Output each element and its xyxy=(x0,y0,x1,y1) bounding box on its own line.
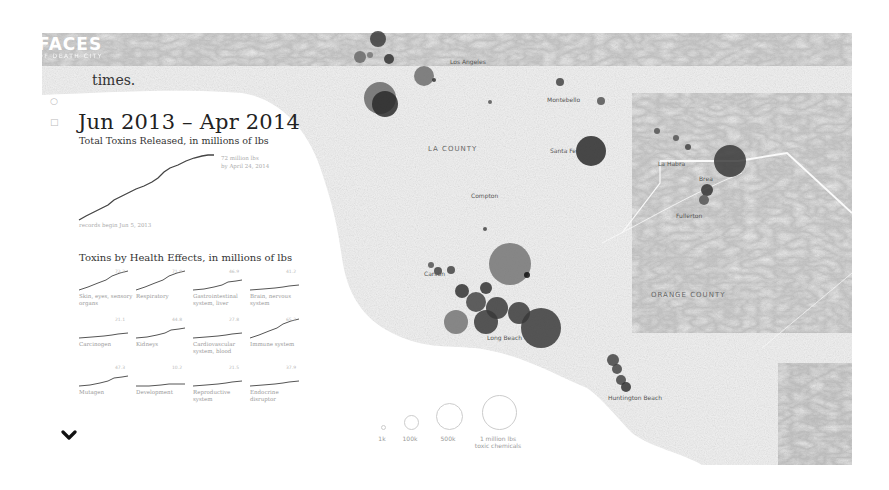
facility-bubble[interactable] xyxy=(466,292,486,312)
health-effect-sparkline[interactable]: 27.8Cardiovascular system, blood xyxy=(192,316,249,360)
info-panel: times. ○ □ Jun 2013 – Apr 2014 Total Tox… xyxy=(0,0,340,490)
sparkline-label: Kidneys xyxy=(136,341,191,348)
facility-bubble[interactable] xyxy=(483,227,487,231)
city-label: Carson xyxy=(424,270,445,277)
sparkline-value: 21.5 xyxy=(229,365,239,370)
county-label: ORANGE COUNTY xyxy=(651,291,726,299)
city-label: Fullerton xyxy=(676,212,702,219)
sparkline-value: 65.2 xyxy=(286,317,296,322)
twitter-icon[interactable]: ○ xyxy=(50,97,59,106)
health-effect-sparkline[interactable]: 65.2Immune system xyxy=(249,316,306,360)
facility-bubble[interactable] xyxy=(414,66,434,86)
health-effect-sparkline[interactable]: 21.5Reproductive system xyxy=(192,364,249,408)
sparkline-label: Development xyxy=(136,389,191,396)
sparkline-label: Mutagen xyxy=(79,389,134,396)
period-title: Jun 2013 – Apr 2014 xyxy=(78,110,300,134)
health-effect-sparkline[interactable]: 72.3Skin, eyes, sensory organs xyxy=(78,268,135,312)
facility-bubble[interactable] xyxy=(384,54,394,64)
sparkline-value: 37.9 xyxy=(286,365,296,370)
chevron-down-icon[interactable] xyxy=(61,430,77,442)
health-effect-sparkline[interactable]: 46.9Gastrointestinal system, liver xyxy=(192,268,249,312)
facility-bubble[interactable] xyxy=(432,78,436,82)
facility-bubble[interactable] xyxy=(480,282,492,294)
facility-bubble[interactable] xyxy=(444,310,468,334)
legend-label: 1 million lbs toxic chemicals xyxy=(468,435,528,449)
city-label: Huntington Beach xyxy=(608,394,662,401)
legend-circle xyxy=(482,395,517,430)
facility-bubble[interactable] xyxy=(488,100,492,104)
facility-bubble[interactable] xyxy=(597,97,605,105)
facility-bubble[interactable] xyxy=(576,136,606,166)
facility-bubble[interactable] xyxy=(354,51,366,63)
sparkline-label: Carcinogen xyxy=(79,341,134,348)
sparkline-value: 27.8 xyxy=(229,317,239,322)
health-effect-sparkline[interactable]: 44.8Kidneys xyxy=(135,316,192,360)
legend-circle xyxy=(436,403,463,430)
logo-subtitle: OF DEATH CITY xyxy=(38,52,103,59)
city-label: Santa Fe xyxy=(550,147,576,154)
city-label: Brea xyxy=(699,175,713,182)
facility-bubble[interactable] xyxy=(428,262,434,268)
sparkline-label: Skin, eyes, sensory organs xyxy=(79,293,134,307)
facebook-icon[interactable]: □ xyxy=(50,118,59,127)
total-start-label: records begin Jun 5, 2013 xyxy=(79,222,151,228)
city-label: Long Beach xyxy=(487,334,522,341)
sparkline-value: 21.1 xyxy=(115,317,125,322)
facility-bubble[interactable] xyxy=(372,91,398,117)
sparkline-label: Endocrine disruptor xyxy=(250,389,305,403)
site-logo[interactable]: FACES OF DEATH CITY xyxy=(38,36,103,59)
logo-title: FACES xyxy=(38,36,103,52)
facility-bubble[interactable] xyxy=(556,78,564,86)
bubble-size-legend: 1k100k500k1 million lbs toxic chemicals xyxy=(370,390,540,460)
health-effect-sparkline[interactable]: 71.9Respiratory xyxy=(135,268,192,312)
facility-bubble[interactable] xyxy=(612,364,622,374)
sparkline-value: 71.9 xyxy=(172,269,182,274)
facility-bubble[interactable] xyxy=(685,144,691,150)
facility-bubble[interactable] xyxy=(489,243,531,285)
legend-circle xyxy=(404,415,419,430)
sparkline-label: Cardiovascular system, blood xyxy=(193,341,248,355)
sparkline-value: 41.2 xyxy=(286,269,296,274)
facility-bubble[interactable] xyxy=(521,308,561,348)
city-label: Compton xyxy=(471,192,498,199)
facility-bubble[interactable] xyxy=(524,272,530,278)
city-label: Los Angeles xyxy=(450,58,486,65)
sparkline-label: Respiratory xyxy=(136,293,191,300)
facility-bubble[interactable] xyxy=(370,31,386,47)
sparkline-value: 10.2 xyxy=(172,365,182,370)
facility-bubble[interactable] xyxy=(714,145,746,177)
total-toxins-line-chart xyxy=(78,150,223,225)
facility-bubble[interactable] xyxy=(367,52,373,58)
city-label: Montebello xyxy=(547,96,580,103)
intro-text-fragment: times. xyxy=(92,72,135,88)
health-effects-title: Toxins by Health Effects, in millions of… xyxy=(79,252,292,263)
total-chart-title: Total Toxins Released, in millions of lb… xyxy=(79,135,269,146)
sparkline-label: Brain, nervous system xyxy=(250,293,305,307)
facility-bubble[interactable] xyxy=(474,310,498,334)
facility-bubble[interactable] xyxy=(621,382,631,392)
sparkline-value: 72.3 xyxy=(115,269,125,274)
sparkline-value: 44.8 xyxy=(172,317,182,322)
health-effect-sparkline[interactable]: 41.2Brain, nervous system xyxy=(249,268,306,312)
health-effect-sparkline[interactable]: 21.1Carcinogen xyxy=(78,316,135,360)
facility-bubble[interactable] xyxy=(654,128,660,134)
total-end-label: 72 million lbs by April 24, 2014 xyxy=(221,154,269,170)
sparkline-label: Gastrointestinal system, liver xyxy=(193,293,248,307)
facility-bubble[interactable] xyxy=(673,135,679,141)
facility-bubble[interactable] xyxy=(699,195,709,205)
sparkline-label: Immune system xyxy=(250,341,305,348)
sparkline-label: Reproductive system xyxy=(193,389,248,403)
health-effect-sparkline[interactable]: 47.3Mutagen xyxy=(78,364,135,408)
city-label: La Habra xyxy=(658,160,685,167)
facility-bubble[interactable] xyxy=(447,266,455,274)
health-effect-sparkline[interactable]: 10.2Development xyxy=(135,364,192,408)
sparkline-value: 47.3 xyxy=(115,365,125,370)
health-effect-sparkline[interactable]: 37.9Endocrine disruptor xyxy=(249,364,306,408)
sparkline-value: 46.9 xyxy=(229,269,239,274)
health-effects-grid: 72.3Skin, eyes, sensory organs71.9Respir… xyxy=(78,268,308,408)
county-label: LA COUNTY xyxy=(428,145,477,153)
legend-circle xyxy=(381,425,386,430)
